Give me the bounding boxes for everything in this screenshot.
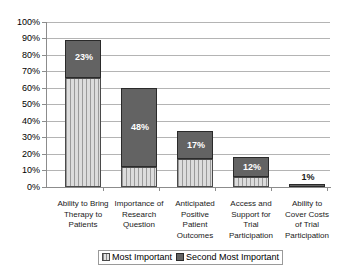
x-tick-2 — [159, 187, 160, 191]
y-axis-label-10: 10% — [0, 166, 40, 175]
x-axis-label-1-line-1: Ability to Bring — [52, 199, 114, 210]
x-axis-label-2: Importance of Research Question — [108, 199, 170, 231]
y-axis-label-40: 40% — [0, 117, 40, 126]
bar-segment-most-important-3 — [177, 159, 213, 187]
y-axis-label-100: 100% — [0, 18, 40, 27]
x-axis-label-4: Access and Support for Trial Participati… — [220, 199, 282, 241]
legend-label-most-important: Most Important — [112, 252, 172, 262]
x-axis-label-5: Ability to Cover Costs of Trial Particip… — [276, 199, 338, 241]
gridline-100 — [47, 22, 330, 23]
legend-swatch-most-important-icon — [102, 253, 110, 261]
x-tick-3 — [215, 187, 216, 191]
y-axis-label-70: 70% — [0, 67, 40, 76]
bar-group-5: 1% — [289, 184, 325, 187]
bar-segment-most-important-4 — [233, 177, 269, 187]
gridline-90 — [47, 38, 330, 39]
x-axis-label-2-line-1: Importance of — [108, 199, 170, 210]
legend-item-most-important: Most Important — [102, 252, 172, 262]
x-axis-label-5-line-1: Ability to — [276, 199, 338, 210]
y-axis-label-80: 80% — [0, 51, 40, 60]
plot-area: 23% 48% 17% 12% 1% — [47, 22, 330, 187]
x-axis-label-1-line-2: Therapy to — [52, 210, 114, 221]
x-axis-label-2-line-2: Research — [108, 210, 170, 221]
y-axis-label-0: 0% — [0, 183, 40, 192]
bar-value-label-4: 12% — [234, 163, 270, 172]
legend-item-second-most-important: Second Most Important — [176, 252, 279, 262]
bar-group-3: 17% — [177, 131, 213, 187]
bar-group-2: 48% — [121, 88, 157, 187]
chart-legend: Most Important Second Most Important — [98, 250, 283, 265]
legend-swatch-second-most-important-icon — [176, 253, 184, 261]
bar-value-label-2: 48% — [122, 123, 158, 132]
x-axis-label-3-line-2: Positive — [164, 210, 226, 221]
x-tick-4 — [271, 187, 272, 191]
bar-segment-second-most-important-4: 12% — [233, 157, 269, 177]
y-axis-label-60: 60% — [0, 84, 40, 93]
bar-segment-most-important-1 — [65, 78, 101, 187]
x-axis-label-3: Anticipated Positive Patient Outcomes — [164, 199, 226, 241]
x-axis-label-3-line-1: Anticipated — [164, 199, 226, 210]
y-axis-label-50: 50% — [0, 100, 40, 109]
x-axis-label-3-line-4: Outcomes — [164, 231, 226, 242]
bar-segment-most-important-2 — [121, 167, 157, 187]
x-axis-label-5-line-3: of Trial — [276, 220, 338, 231]
bar-group-1: 23% — [65, 40, 101, 187]
bar-segment-second-most-important-3: 17% — [177, 131, 213, 159]
bar-segment-second-most-important-5: 1% — [289, 184, 325, 187]
bar-segment-second-most-important-2: 48% — [121, 88, 157, 167]
stacked-bar-chart: 100% 90% 80% 70% 60% 50% 40% 30% 20% 10%… — [0, 0, 354, 272]
bar-value-label-1: 23% — [66, 53, 102, 62]
x-tick-1 — [103, 187, 104, 191]
x-axis-label-4-line-4: Participation — [220, 231, 282, 242]
x-axis-label-4-line-3: Trial — [220, 220, 282, 231]
x-axis-label-4-line-1: Access and — [220, 199, 282, 210]
x-axis-label-5-line-4: Participation — [276, 231, 338, 242]
y-axis-label-90: 90% — [0, 34, 40, 43]
x-axis-label-2-line-3: Question — [108, 220, 170, 231]
x-axis-label-3-line-3: Patient — [164, 220, 226, 231]
x-tick-5 — [327, 187, 328, 191]
x-axis-line — [46, 187, 331, 188]
bar-group-4: 12% — [233, 157, 269, 187]
y-axis-label-20: 20% — [0, 150, 40, 159]
bar-segment-second-most-important-1: 23% — [65, 40, 101, 78]
legend-label-second-most-important: Second Most Important — [186, 252, 279, 262]
y-axis-label-30: 30% — [0, 133, 40, 142]
x-axis-label-1: Ability to Bring Therapy to Patients — [52, 199, 114, 231]
x-axis-label-1-line-3: Patients — [52, 220, 114, 231]
x-axis-label-4-line-2: Support for — [220, 210, 282, 221]
x-axis-label-5-line-2: Cover Costs — [276, 210, 338, 221]
bar-value-label-5: 1% — [290, 173, 326, 182]
bar-value-label-3: 17% — [178, 141, 214, 150]
